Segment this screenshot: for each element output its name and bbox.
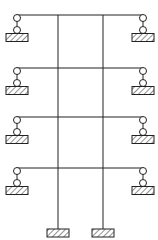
base-support-2 xyxy=(92,229,114,237)
hinge-icon xyxy=(14,68,21,75)
side-support-right-2 xyxy=(132,87,154,95)
frame-elements xyxy=(6,15,154,238)
structural-frame-diagram xyxy=(0,0,158,240)
hinge-icon xyxy=(140,129,147,136)
side-support-right-1 xyxy=(132,34,154,42)
side-support-left-2 xyxy=(6,87,28,95)
side-support-left-3 xyxy=(6,136,28,144)
hinge-icon xyxy=(140,180,147,187)
hinge-icon xyxy=(140,27,147,34)
hinge-icon xyxy=(14,27,21,34)
hinge-icon xyxy=(140,168,147,175)
hinge-icon xyxy=(14,180,21,187)
base-support-1 xyxy=(47,229,69,237)
side-support-left-4 xyxy=(6,187,28,195)
hinge-icon xyxy=(140,80,147,87)
hinge-icon xyxy=(140,15,147,22)
side-support-left-1 xyxy=(6,34,28,42)
hinge-icon xyxy=(140,117,147,124)
hinge-icon xyxy=(14,80,21,87)
side-support-right-3 xyxy=(132,136,154,144)
side-support-right-4 xyxy=(132,187,154,195)
hinge-icon xyxy=(140,68,147,75)
hinge-icon xyxy=(14,15,21,22)
hinge-icon xyxy=(14,129,21,136)
hinge-icon xyxy=(14,168,21,175)
hinge-icon xyxy=(14,117,21,124)
